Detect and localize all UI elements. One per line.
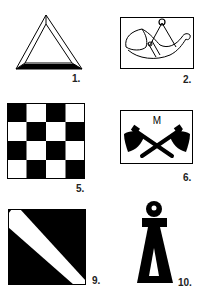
figure-6-crossed-axes: M: [120, 110, 194, 165]
figure-2-label: 2.: [183, 74, 191, 85]
figure-9-label: 9.: [92, 275, 100, 286]
figure-5-label: 5.: [76, 183, 84, 194]
figure-9-flag: [8, 209, 86, 285]
figure-6-label: 6.: [183, 172, 191, 183]
figure-10-ankh-pyramid: [137, 200, 175, 286]
triangle-icon: [14, 13, 84, 73]
checkerboard-icon: [7, 103, 85, 179]
crossed-axes-icon: M: [120, 110, 194, 165]
figure-2-bugle: [120, 17, 195, 70]
figure-1-label: 1.: [72, 73, 80, 84]
axes-letter: M: [153, 115, 161, 126]
diagonal-stripe-flag-icon: [8, 209, 86, 285]
bugle-horn-icon: [120, 17, 195, 70]
figure-10-label: 10.: [178, 277, 192, 288]
ankh-pyramid-icon: [137, 200, 175, 286]
figure-1-triangle: [14, 13, 84, 73]
figure-5-checkerboard: [7, 103, 85, 179]
